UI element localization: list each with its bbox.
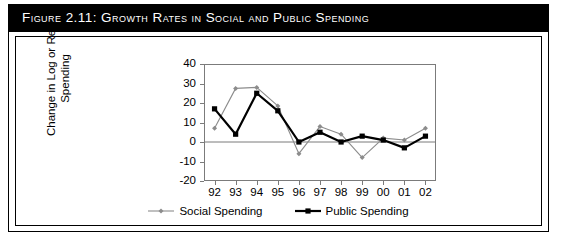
y-tick-label: 0 bbox=[166, 136, 196, 148]
x-tick-label: 02 bbox=[413, 186, 437, 198]
series-marker bbox=[360, 134, 365, 139]
legend-diamond-marker-icon bbox=[148, 206, 174, 216]
line-chart: Change in Log or Real Spending 403020100… bbox=[16, 37, 541, 225]
y-tick-label: 30 bbox=[166, 78, 196, 90]
series-marker bbox=[233, 132, 238, 137]
series-marker bbox=[317, 130, 322, 135]
y-tick-mark bbox=[200, 142, 204, 143]
y-tick-label: -10 bbox=[166, 156, 196, 168]
legend-item[interactable]: Public Spending bbox=[295, 205, 409, 217]
series-line bbox=[215, 87, 426, 157]
x-tick-mark bbox=[299, 181, 300, 185]
y-tick-mark bbox=[200, 64, 204, 65]
figure-title-bar: Figure 2.11: Growth Rates in Social and … bbox=[9, 5, 548, 32]
legend-label: Social Spending bbox=[179, 205, 262, 217]
y-tick-mark bbox=[200, 162, 204, 163]
series-line bbox=[215, 93, 426, 148]
x-tick-mark bbox=[404, 181, 405, 185]
y-tick-mark bbox=[200, 103, 204, 104]
y-tick-label: 10 bbox=[166, 117, 196, 129]
x-tick-mark bbox=[425, 181, 426, 185]
plot-series-canvas bbox=[204, 64, 436, 181]
y-tick-mark bbox=[200, 123, 204, 124]
chart-legend: Social SpendingPublic Spending bbox=[16, 205, 541, 217]
series-marker bbox=[338, 139, 343, 144]
y-tick-label: 20 bbox=[166, 97, 196, 109]
series-marker bbox=[254, 91, 259, 96]
series-marker bbox=[275, 108, 280, 113]
x-tick-mark bbox=[320, 181, 321, 185]
legend-label: Public Spending bbox=[326, 205, 409, 217]
series-marker bbox=[423, 134, 428, 139]
y-tick-label: -20 bbox=[166, 175, 196, 187]
x-tick-mark bbox=[383, 181, 384, 185]
x-tick-mark bbox=[215, 181, 216, 185]
y-tick-mark bbox=[200, 181, 204, 182]
y-tick-mark bbox=[200, 84, 204, 85]
x-tick-mark bbox=[236, 181, 237, 185]
series-marker bbox=[381, 137, 386, 142]
series-marker bbox=[233, 86, 238, 91]
chart-card: Change in Log or Real Spending 403020100… bbox=[15, 36, 542, 226]
x-tick-mark bbox=[362, 181, 363, 185]
series-marker bbox=[296, 139, 301, 144]
figure-title: Figure 2.11: Growth Rates in Social and … bbox=[22, 10, 369, 25]
figure-frame: Figure 2.11: Growth Rates in Social and … bbox=[8, 4, 549, 232]
x-tick-mark bbox=[257, 181, 258, 185]
y-tick-label: 40 bbox=[166, 58, 196, 70]
y-axis-label: Change in Log or Real Spending bbox=[45, 0, 72, 159]
legend-item[interactable]: Social Spending bbox=[148, 205, 262, 217]
series-marker bbox=[402, 145, 407, 150]
x-tick-mark bbox=[341, 181, 342, 185]
series-marker bbox=[423, 126, 428, 131]
series-marker bbox=[212, 126, 217, 131]
series-marker bbox=[212, 106, 217, 111]
legend-square-marker-icon bbox=[295, 206, 321, 216]
x-tick-mark bbox=[278, 181, 279, 185]
